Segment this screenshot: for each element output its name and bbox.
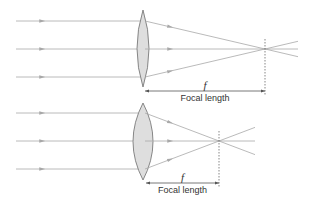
dimension-arrow-left-icon bbox=[145, 89, 149, 92]
ray-arrow-icon bbox=[167, 120, 173, 124]
dimension-arrow-right-icon bbox=[261, 89, 265, 92]
focal-length-label-top: Focal length bbox=[180, 94, 229, 103]
ray-arrow-icon bbox=[39, 75, 45, 78]
ray-arrow-icon bbox=[167, 47, 173, 50]
ray-arrow-icon bbox=[39, 47, 45, 50]
ray-arrow-icon bbox=[39, 139, 45, 142]
diagram-canvas bbox=[0, 0, 312, 205]
ray-arrow-icon bbox=[167, 25, 173, 28]
ray-arrow-icon bbox=[167, 139, 173, 142]
dimension-arrow-right-icon bbox=[215, 181, 219, 184]
ray-arrow-icon bbox=[39, 111, 45, 114]
ray-arrow-icon bbox=[39, 167, 45, 170]
focal-symbol-top: f bbox=[203, 80, 206, 91]
ray-arrow-icon bbox=[167, 70, 173, 73]
dimension-arrow-left-icon bbox=[146, 181, 150, 184]
focal-length-label-bottom: Focal length bbox=[158, 186, 207, 195]
ray-arrow-icon bbox=[39, 19, 45, 22]
ray-arrow-icon bbox=[167, 158, 173, 162]
focal-symbol-bottom: f bbox=[181, 172, 184, 183]
lens-focal-length-diagram: f Focal length f Focal length bbox=[0, 0, 312, 205]
